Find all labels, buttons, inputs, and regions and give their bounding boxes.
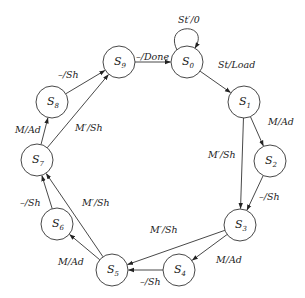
transition-label: –/Sh — [259, 191, 280, 202]
transition-label: M/Ad — [215, 254, 242, 265]
state-s6: S6 — [41, 208, 73, 240]
transition-label: St/Load — [218, 59, 255, 70]
state-s4: S4 — [163, 254, 195, 286]
transition-S7-S8 — [41, 118, 48, 145]
states: S0S1S2S3S4S5S6S7S8S9 — [21, 46, 286, 286]
state-s1: S1 — [228, 86, 260, 118]
transition-label: M′/Sh — [149, 224, 178, 235]
state-s0: S0 — [171, 46, 203, 78]
transition-label: M/Ad — [267, 116, 294, 127]
transition-label: –/Sh — [58, 69, 79, 80]
transition-label: M/Ad — [14, 124, 41, 135]
transition-label: M′/Sh — [81, 197, 110, 208]
state-s5: S5 — [96, 254, 128, 286]
transition-S1-S3 — [241, 118, 244, 209]
transition-label: M′/Sh — [207, 149, 236, 160]
state-s2: S2 — [254, 145, 286, 177]
state-s3: S3 — [224, 209, 256, 241]
transition-label: M/Ad — [57, 256, 84, 267]
transition-label: –/Sh — [20, 197, 41, 208]
transition-label: St′/0 — [178, 14, 200, 25]
transition-S0-S1 — [200, 71, 230, 92]
transition-label: –/Sh — [140, 276, 161, 287]
state-diagram: S0S1S2S3S4S5S6S7S8S9 St′/0St/LoadM/AdM′/… — [0, 0, 305, 298]
state-s8: S8 — [36, 86, 68, 118]
state-s9: S9 — [103, 46, 135, 78]
state-s7: S7 — [21, 144, 53, 176]
transition-S1-S2 — [250, 117, 263, 146]
state-diagram-svg: S0S1S2S3S4S5S6S7S8S9 St′/0St/LoadM/AdM′/… — [0, 0, 305, 298]
transition-label: M′/Sh — [74, 122, 103, 133]
transition-labels: St′/0St/LoadM/AdM′/Sh–/ShM/AdM′/Sh–/ShM/… — [14, 14, 294, 287]
transition-label: –/Done — [136, 51, 169, 62]
